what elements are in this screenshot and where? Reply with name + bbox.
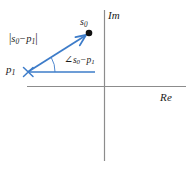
imaginary-axis-label: Im xyxy=(108,10,120,21)
complex-plane-figure: Im Re s0 p1 |s0−p1| ∠s0−p1 xyxy=(0,0,186,170)
magnitude-close-bar: | xyxy=(35,32,37,45)
magnitude-annotation: |s0−p1| xyxy=(9,33,38,45)
figure-canvas xyxy=(0,0,186,170)
angle-symbol-icon: ∠ xyxy=(64,54,73,65)
real-axis-label: Re xyxy=(160,92,172,103)
s0-subscript: 0 xyxy=(84,21,88,29)
angle-arc xyxy=(51,58,55,72)
s0-point-marker xyxy=(86,30,93,37)
angle-annotation: ∠s0−p1 xyxy=(64,55,95,66)
p1-point-label: p1 xyxy=(6,64,15,77)
angle-sub-2: 1 xyxy=(91,58,94,65)
p1-subscript: 1 xyxy=(12,68,16,77)
s0-point-label: s0 xyxy=(80,17,88,29)
